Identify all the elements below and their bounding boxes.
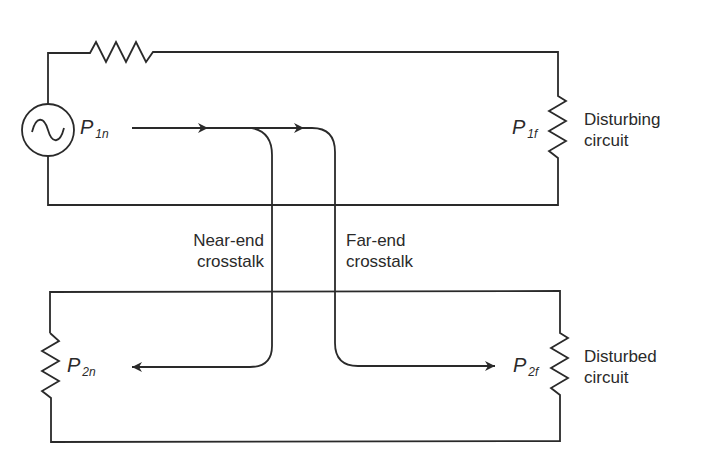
p2f-label: P2f xyxy=(513,355,538,383)
far-end-crosstalk-label: Far-end crosstalk xyxy=(346,230,413,272)
disturbing-circuit-label: Disturbing circuit xyxy=(584,109,661,151)
p1f-label: P1f xyxy=(512,117,537,145)
p1n-label: P1n xyxy=(80,117,109,145)
near-end-crosstalk-label: Near-end crosstalk xyxy=(172,230,264,272)
disturbed-circuit-label: Disturbed circuit xyxy=(584,346,657,388)
series-resistor-icon xyxy=(48,42,566,205)
ac-source-icon xyxy=(22,104,74,156)
p2n-label: P2n xyxy=(67,355,96,383)
